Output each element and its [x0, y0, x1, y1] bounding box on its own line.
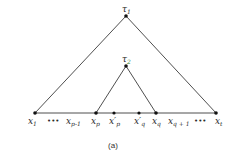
label-xp-prime: x′p — [109, 116, 120, 128]
label-xq: xq — [152, 116, 161, 128]
tree-diagram: τ1 τ2 x1 ••• xp-1 xp x′p x′q xq xq + 1 •… — [0, 0, 226, 154]
label-xp: xp — [91, 116, 100, 128]
label-x1: x1 — [28, 116, 37, 127]
node-xq-prime — [137, 111, 140, 114]
label-xq-prime: x′q — [134, 116, 145, 128]
edge-tau2-xq — [126, 66, 156, 113]
ellipsis-right: ••• — [194, 117, 206, 125]
label-xt: xt — [215, 116, 223, 127]
label-xq+1: xq + 1 — [168, 116, 190, 128]
label-tau1: τ1 — [122, 4, 131, 15]
edge-tau1-xt — [126, 16, 216, 113]
label-xp-1: xp-1 — [66, 116, 81, 128]
node-xt — [214, 111, 218, 115]
node-xp — [94, 111, 98, 115]
node-xp-prime — [112, 111, 115, 114]
node-x1 — [33, 111, 37, 115]
node-xq — [154, 111, 158, 115]
edge-tau1-x1 — [35, 16, 126, 113]
figure-caption: (a) — [108, 141, 118, 150]
ellipsis-left: ••• — [47, 117, 59, 125]
label-tau2: τ2 — [122, 54, 131, 65]
edge-tau2-xp — [96, 66, 126, 113]
